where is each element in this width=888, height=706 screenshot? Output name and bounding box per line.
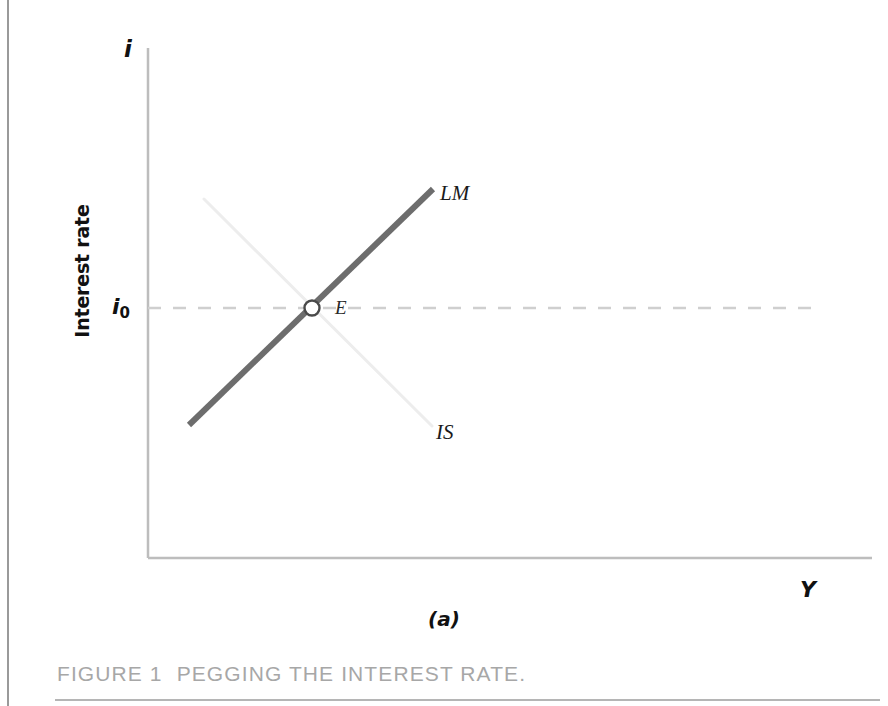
is-curve-label: IS: [436, 420, 454, 445]
x-axis-variable-label: Y: [800, 577, 816, 602]
equilibrium-point-marker: [305, 301, 320, 316]
y-axis-variable-label: i: [124, 36, 132, 62]
plot-canvas: [0, 0, 888, 706]
caption-divider-rule: [55, 699, 880, 701]
equilibrium-point-label: E: [335, 297, 347, 319]
lm-curve-label: LM: [440, 181, 469, 206]
panel-label: (a): [0, 607, 888, 631]
y-axis-title: Interest rate: [71, 181, 93, 361]
figure-container: i i0 Interest rate Y LM IS E (a) FIGURE …: [0, 0, 888, 706]
figure-caption: FIGURE 1PEGGING THE INTEREST RATE.: [57, 662, 526, 686]
pegged-rate-axis-label: i0: [112, 294, 130, 322]
figure-caption-number: FIGURE 1: [57, 662, 163, 685]
figure-caption-title: PEGGING THE INTEREST RATE.: [177, 662, 527, 685]
pegged-rate-subscript: 0: [120, 304, 130, 322]
pegged-rate-base: i: [112, 294, 120, 319]
